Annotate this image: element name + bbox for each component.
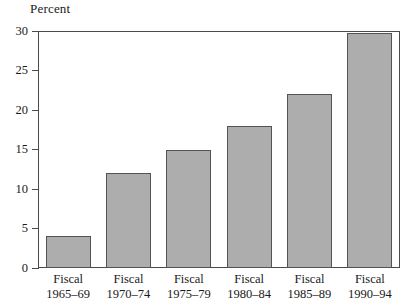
y-axis-tick	[32, 110, 39, 111]
y-axis-tick	[32, 189, 39, 190]
x-axis-category-label: Fiscal1965–69	[38, 272, 98, 302]
x-axis-category-line2: 1970–74	[98, 287, 158, 302]
y-axis-tick-label: 10	[6, 183, 28, 195]
x-axis-category-line2: 1975–79	[159, 287, 219, 302]
y-axis-label: Percent	[30, 2, 70, 16]
y-axis-tick-label: 30	[6, 25, 28, 37]
y-axis-tick-label: 5	[6, 222, 28, 234]
bar	[287, 94, 332, 268]
y-axis-tick-label: 20	[6, 104, 28, 116]
y-axis-tick	[32, 228, 39, 229]
y-axis-tick-label: 15	[6, 143, 28, 155]
y-axis-tick	[32, 31, 39, 32]
x-axis-category-line2: 1980–84	[219, 287, 279, 302]
x-axis-category-label: Fiscal1970–74	[98, 272, 158, 302]
bar	[166, 150, 211, 269]
x-axis-category-line1: Fiscal	[98, 272, 158, 287]
bar	[106, 173, 151, 268]
bar	[46, 236, 91, 268]
y-axis-tick-label: 25	[6, 64, 28, 76]
x-axis-category-line1: Fiscal	[38, 272, 98, 287]
x-axis-category-line1: Fiscal	[219, 272, 279, 287]
x-axis-category-line2: 1965–69	[38, 287, 98, 302]
y-axis-tick-label: 0	[6, 262, 28, 274]
plot-area	[38, 31, 400, 268]
y-axis-tick	[32, 268, 39, 269]
x-axis-category-line1: Fiscal	[279, 272, 339, 287]
x-axis-category-label: Fiscal1975–79	[159, 272, 219, 302]
y-axis-tick	[32, 70, 39, 71]
x-axis-category-line1: Fiscal	[159, 272, 219, 287]
x-axis-category-line1: Fiscal	[340, 272, 400, 287]
x-axis-category-label: Fiscal1990–94	[340, 272, 400, 302]
x-axis-category-label: Fiscal1985–89	[279, 272, 339, 302]
x-axis-category-line2: 1985–89	[279, 287, 339, 302]
bar	[347, 33, 392, 268]
x-axis-category-line2: 1990–94	[340, 287, 400, 302]
bar	[227, 126, 272, 268]
x-axis-category-label: Fiscal1980–84	[219, 272, 279, 302]
y-axis-tick	[32, 149, 39, 150]
